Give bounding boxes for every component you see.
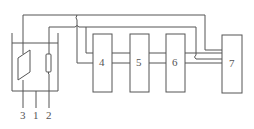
wire-to-box4-upper [86, 27, 93, 53]
label-electrode-plate: 3 [20, 109, 26, 121]
label-beaker: 1 [33, 109, 39, 121]
label-electrode-cylinder: 2 [46, 109, 52, 121]
cylinder-electrode [46, 54, 51, 72]
diagram-canvas: 4 5 6 7 3 1 2 [0, 0, 254, 129]
block-4-label: 4 [99, 56, 105, 68]
wire-electrode3-to-box7 [23, 15, 222, 54]
wire-electrode2-to-box7 [49, 26, 222, 60]
plate-electrode [18, 50, 30, 80]
block-6-label: 6 [172, 56, 178, 68]
block-5-label: 5 [136, 56, 142, 68]
block-7-label: 7 [229, 57, 235, 69]
wire-to-box4-lower [76, 15, 93, 63]
